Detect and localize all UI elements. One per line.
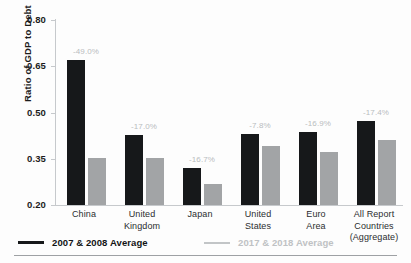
bar-value-annotation: -17.4%	[351, 108, 402, 117]
bar-series-old	[183, 168, 201, 205]
legend-item[interactable]: 2007 & 2008 Average	[18, 237, 148, 248]
bar-value-annotation: -17.0%	[119, 122, 170, 131]
bar-series-old	[67, 60, 85, 205]
x-axis-line	[55, 205, 403, 206]
bar-series-new	[204, 184, 222, 205]
x-category-line: Countries	[337, 221, 411, 233]
bar-value-annotation: -49.0%	[61, 47, 112, 56]
y-tick: 0.20	[51, 205, 56, 206]
y-tick-label: 0.80	[27, 14, 46, 25]
bar-value-annotation: -7.8%	[235, 121, 286, 130]
legend-swatch	[204, 242, 230, 244]
bar-series-new	[88, 158, 106, 205]
bar-value-annotation: -16.7%	[177, 155, 228, 164]
bottom-rule	[14, 255, 397, 256]
bar-series-old	[357, 121, 375, 205]
bar-series-new	[262, 146, 280, 206]
bar-series-old	[299, 132, 317, 205]
legend-label: 2017 & 2018 Average	[238, 237, 334, 248]
legend-item[interactable]: 2017 & 2018 Average	[204, 237, 334, 248]
bar-series-old	[125, 135, 143, 205]
x-category-label: All ReportCountries(Aggregate)	[337, 209, 411, 244]
bar-series-new	[146, 158, 164, 205]
y-tick-label: 0.35	[27, 153, 46, 164]
y-tick-label: 0.50	[27, 107, 46, 118]
figure-top-caption	[62, 0, 352, 7]
legend-swatch	[18, 241, 44, 245]
chart-figure: Ratio of GDP to Debt 0.200.350.500.650.8…	[0, 0, 411, 263]
x-category-line: (Aggregate)	[337, 232, 411, 244]
bar-series-new	[320, 152, 338, 205]
y-tick-label: 0.20	[27, 199, 46, 210]
y-tick-label: 0.65	[27, 60, 46, 71]
bar-value-annotation: -16.9%	[293, 119, 344, 128]
x-category-line: Kingdom	[105, 221, 179, 233]
bar-group	[299, 20, 338, 205]
x-category-line: All Report	[337, 209, 411, 221]
legend-label: 2007 & 2008 Average	[52, 237, 148, 248]
bar-series-old	[241, 134, 259, 205]
bar-group	[125, 20, 164, 205]
bar-series-new	[378, 140, 396, 205]
bar-group	[183, 20, 222, 205]
bar-group	[241, 20, 280, 205]
